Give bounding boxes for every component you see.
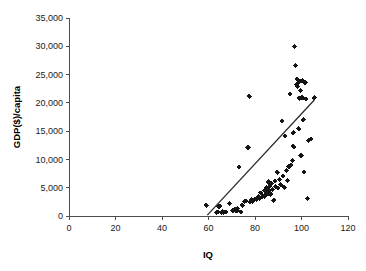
- x-tick-label: 60: [203, 223, 213, 233]
- y-tick-label: 5,000: [40, 183, 63, 193]
- x-tick-label: 80: [250, 223, 260, 233]
- chart-canvas: 05,00010,00015,00020,00025,00030,00035,0…: [0, 0, 366, 271]
- x-tick-label: 120: [340, 223, 355, 233]
- x-tick-label: 40: [157, 223, 167, 233]
- scatter-chart: 05,00010,00015,00020,00025,00030,00035,0…: [0, 0, 366, 271]
- y-tick-label: 35,000: [35, 13, 63, 23]
- y-tick-label: 0: [58, 211, 63, 221]
- y-tick-label: 30,000: [35, 41, 63, 51]
- y-tick-label: 20,000: [35, 98, 63, 108]
- y-axis-title: GDP($)/capita: [11, 85, 22, 148]
- x-axis-title: IQ: [203, 249, 213, 260]
- y-tick-label: 15,000: [35, 126, 63, 136]
- x-tick-label: 20: [110, 223, 120, 233]
- y-tick-label: 10,000: [35, 155, 63, 165]
- x-tick-label: 100: [294, 223, 309, 233]
- y-tick-label: 25,000: [35, 70, 63, 80]
- x-tick-label: 0: [66, 223, 71, 233]
